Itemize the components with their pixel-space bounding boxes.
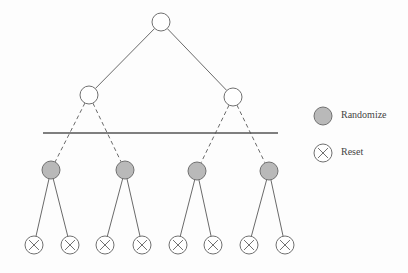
root-node-icon — [152, 13, 170, 31]
legend-label-reset: Reset — [341, 146, 363, 157]
edge-to-reset-leaf-1 — [53, 179, 68, 237]
edge-to-reset-leaf-7 — [271, 180, 283, 236]
randomize-node-icon-2 — [188, 162, 206, 180]
tree-diagram: Randomize Reset — [0, 0, 408, 273]
randomize-node-icon-1 — [116, 161, 134, 179]
edge-to-reset-leaf-3 — [127, 179, 140, 236]
legend-randomize-icon — [314, 107, 332, 125]
randomize-node-icon-3 — [260, 162, 278, 180]
edge-to-reset-leaf-0 — [36, 179, 49, 236]
legend-label-randomize: Randomize — [341, 109, 387, 120]
edge-root-to-node-0 — [95, 28, 154, 88]
edge-to-reset-leaf-4 — [180, 180, 195, 237]
randomize-node-icon-0 — [42, 161, 60, 179]
edge-root-to-node-1 — [167, 28, 227, 90]
edge-to-reset-leaf-2 — [107, 179, 122, 237]
level1-node-icon-0 — [80, 86, 98, 104]
dashed-edge-to-randomize-2 — [201, 105, 229, 163]
edge-to-reset-leaf-5 — [199, 180, 211, 236]
level1-node-icon-1 — [224, 88, 242, 106]
edge-to-reset-leaf-6 — [251, 180, 266, 237]
dashed-edge-to-randomize-3 — [237, 105, 265, 163]
tree-graphic — [0, 0, 408, 273]
